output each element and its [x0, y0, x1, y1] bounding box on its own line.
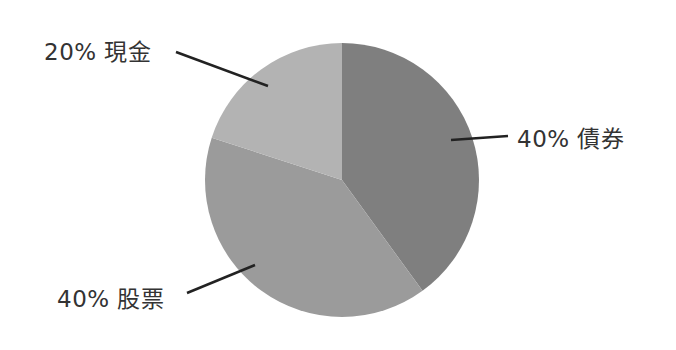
- leader-line-stocks: [187, 265, 255, 293]
- pie-slices: [205, 43, 479, 317]
- label-stocks: 40% 股票: [57, 280, 164, 314]
- label-cash: 20% 現金: [44, 33, 151, 67]
- label-bonds: 40% 債券: [517, 120, 624, 154]
- leader-line-cash: [176, 52, 268, 86]
